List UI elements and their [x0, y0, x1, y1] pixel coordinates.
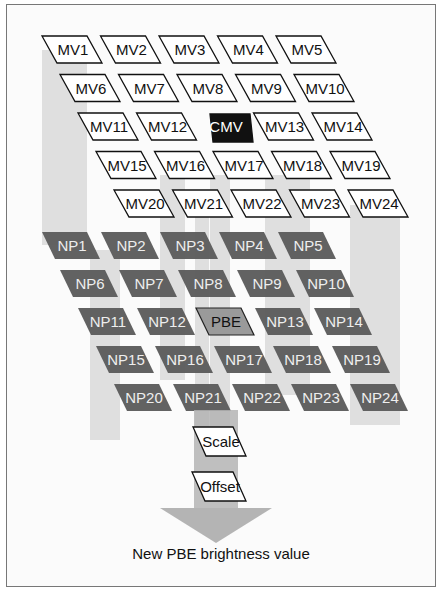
- cell-label: NP21: [184, 389, 222, 406]
- mv-cell: MV3: [159, 36, 219, 63]
- cell-label: NP20: [125, 389, 163, 406]
- cell-label: MV19: [341, 157, 380, 174]
- mv-cell: MV10: [294, 75, 354, 102]
- cell-label: MV3: [175, 41, 206, 58]
- cmv-cell: CMV: [209, 114, 253, 142]
- mv-cell: MV18: [272, 152, 332, 179]
- np-cell: NP23: [291, 384, 349, 411]
- cell-label: NP18: [284, 351, 322, 368]
- cell-label: MV10: [305, 80, 344, 97]
- mv-cell: MV2: [101, 36, 161, 63]
- down-arrow-head: [160, 508, 272, 543]
- cell-label: MV1: [58, 41, 89, 58]
- cell-label: NP8: [193, 275, 222, 292]
- cell-label: MV22: [242, 195, 281, 212]
- cell-label: NP2: [116, 237, 145, 254]
- cell-label: MV2: [116, 41, 147, 58]
- cell-label: NP15: [107, 351, 145, 368]
- offset-label: Offset: [200, 478, 241, 495]
- cell-label: PBE: [211, 313, 241, 330]
- cell-label: MV9: [251, 80, 282, 97]
- cell-label: MV18: [283, 157, 322, 174]
- cell-label: NP19: [343, 351, 381, 368]
- mv-cell: MV12: [137, 113, 197, 140]
- processing-flow: Scale Offset: [160, 410, 272, 543]
- mv-cell: MV13: [254, 113, 314, 140]
- cell-label: MV21: [184, 195, 223, 212]
- mv-cell: MV14: [312, 113, 372, 140]
- cell-label: MV20: [125, 195, 164, 212]
- cell-label: NP9: [252, 275, 281, 292]
- cell-label: NP11: [90, 313, 126, 330]
- cell-label: MV11: [90, 118, 128, 135]
- mv-cell: MV4: [218, 36, 278, 63]
- cell-label: MV6: [76, 80, 107, 97]
- projection-bands: [42, 50, 400, 445]
- np-cell: NP12: [137, 308, 195, 335]
- cell-label: NP4: [234, 237, 263, 254]
- cell-label: MV7: [134, 80, 165, 97]
- cell-label: NP16: [166, 351, 204, 368]
- np-cell: NP20: [114, 384, 172, 411]
- cell-label: NP22: [243, 389, 281, 406]
- mv-cell: MV8: [177, 75, 237, 102]
- cell-label: NP17: [225, 351, 263, 368]
- mv-cell: MV15: [96, 152, 156, 179]
- cell-label: MV8: [193, 80, 224, 97]
- mv-cell: MV7: [119, 75, 179, 102]
- pbe-brightness-diagram: MV1MV2MV3MV4MV5MV6MV7MV8MV9MV10MV11MV12C…: [0, 0, 442, 594]
- mv-cell: MV16: [155, 152, 215, 179]
- cell-label: NP6: [75, 275, 104, 292]
- np-cell: NP1: [42, 232, 100, 259]
- cell-label: NP23: [302, 389, 340, 406]
- cell-label: MV17: [224, 157, 263, 174]
- cell-label: NP24: [361, 389, 399, 406]
- cell-label: NP3: [175, 237, 204, 254]
- cell-label: MV15: [107, 157, 146, 174]
- np-cell: NP11: [78, 308, 136, 335]
- cell-label: NP7: [134, 275, 163, 292]
- mv-cell: MV5: [276, 36, 336, 63]
- cell-label: NP5: [293, 237, 322, 254]
- cell-label: NP12: [148, 313, 186, 330]
- mv-cell: MV19: [330, 152, 390, 179]
- cell-label: MV5: [292, 41, 323, 58]
- cell-label: NP14: [325, 313, 363, 330]
- caption: New PBE brightness value: [0, 545, 442, 562]
- cell-label: MV12: [148, 118, 187, 135]
- scale-label: Scale: [202, 433, 240, 450]
- cell-label: NP13: [266, 313, 304, 330]
- mv-cell: MV9: [236, 75, 296, 102]
- cell-label: MV24: [359, 195, 398, 212]
- cell-label: CMV: [209, 118, 242, 135]
- cell-label: MV23: [301, 195, 340, 212]
- cell-label: MV13: [265, 118, 304, 135]
- cell-label: MV16: [166, 157, 205, 174]
- cell-label: MV14: [323, 118, 362, 135]
- cell-label: NP1: [57, 237, 86, 254]
- cell-label: MV4: [233, 41, 264, 58]
- cell-label: NP10: [307, 275, 345, 292]
- mv-cell: MV17: [213, 152, 273, 179]
